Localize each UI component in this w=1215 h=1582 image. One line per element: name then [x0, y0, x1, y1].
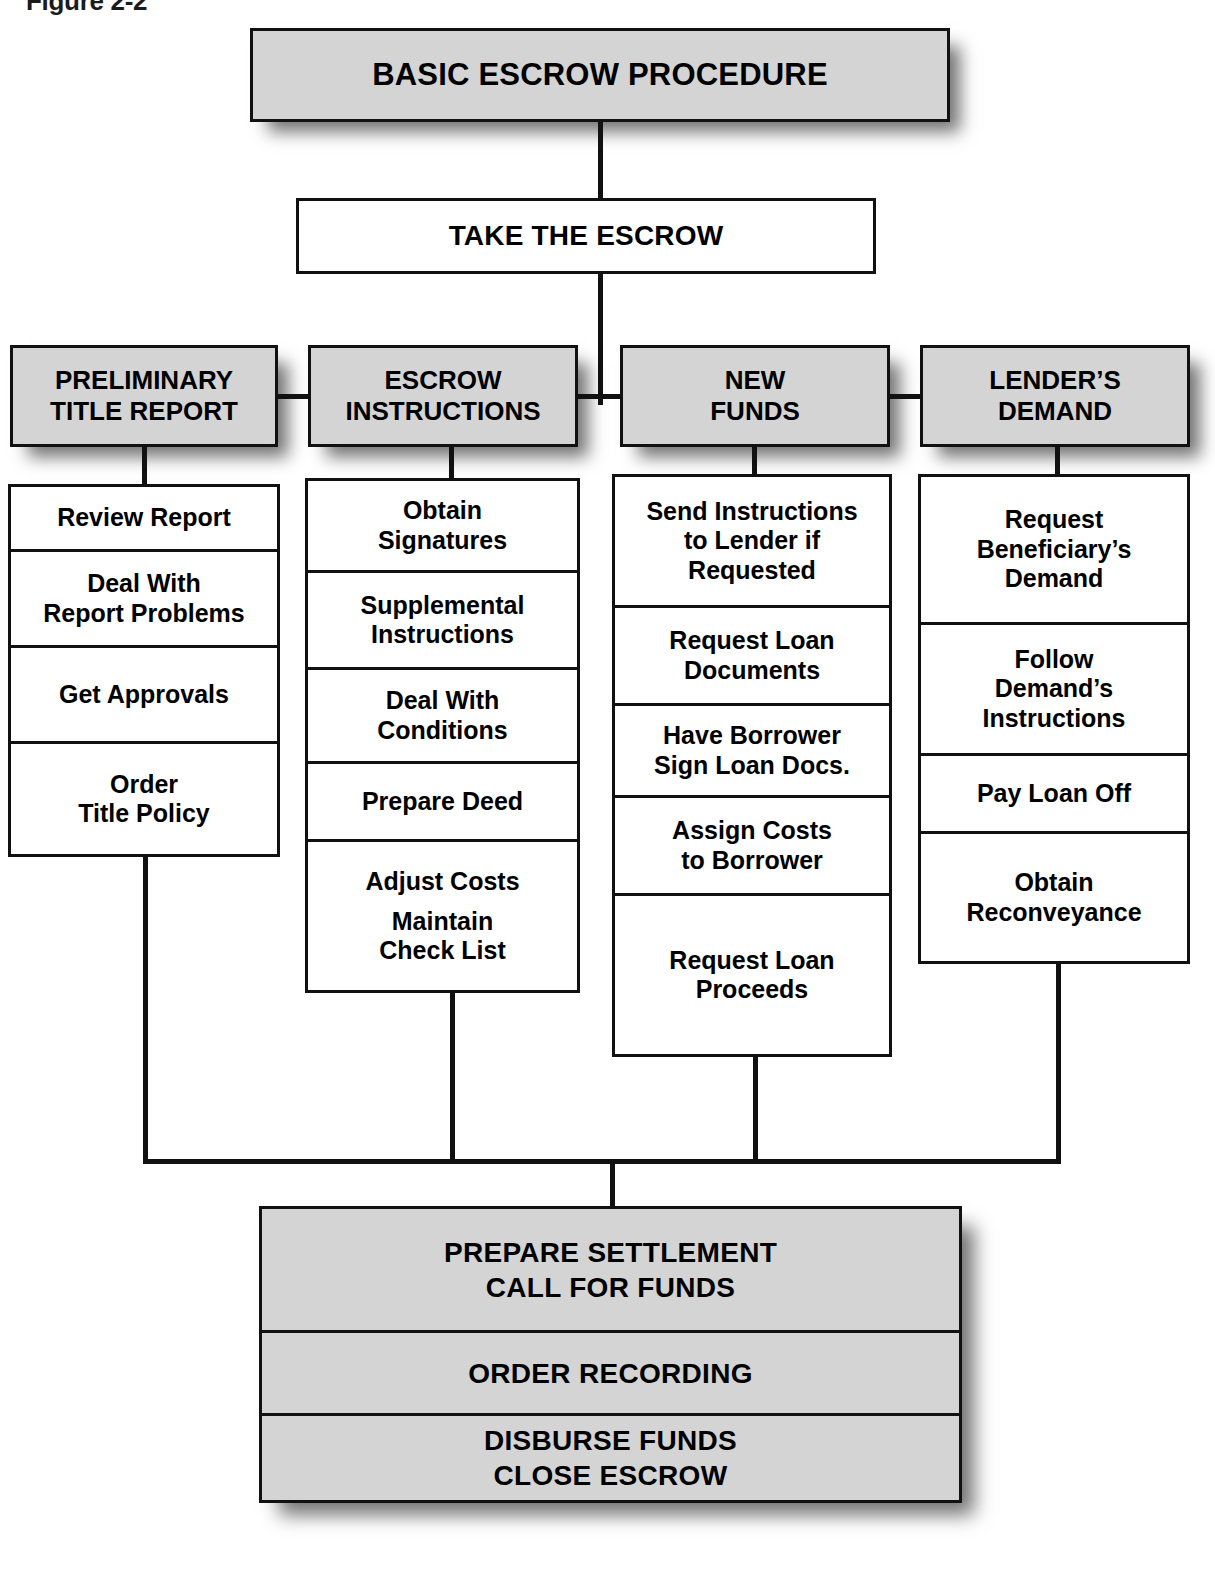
connector-header-to-body-3	[752, 444, 757, 476]
figure-label: Figure 2-2	[26, 0, 147, 17]
list-item: Adjust Costs Maintain Check List	[308, 842, 577, 990]
bottom-row-line2: CALL FOR FUNDS	[486, 1272, 735, 1303]
title-box-label: BASIC ESCROW PROCEDURE	[372, 57, 828, 93]
column-header-lenders-demand: LENDER’S DEMAND	[920, 345, 1190, 447]
list-item: Deal With Conditions	[308, 670, 577, 764]
cell-line-2: Signatures	[378, 526, 507, 554]
list-item: Pay Loan Off	[921, 756, 1187, 834]
list-item: Supplemental Instructions	[308, 573, 577, 670]
cell-line-2: Reconveyance	[966, 898, 1141, 926]
column-header-line1: ESCROW	[385, 365, 502, 396]
cell-line-1: Request	[1005, 505, 1104, 533]
cell-line-1: Obtain	[1014, 868, 1093, 896]
list-item: Request Beneficiary’s Demand	[921, 477, 1187, 625]
title-box: BASIC ESCROW PROCEDURE	[250, 28, 950, 122]
column-body-escrow-instructions: Obtain Signatures Supplemental Instructi…	[305, 478, 580, 993]
bottom-row-line1: ORDER RECORDING	[468, 1358, 753, 1389]
cell-line-2: Conditions	[377, 716, 508, 744]
cell-line-2: Title Policy	[78, 799, 210, 827]
connector-col1-drop	[143, 855, 148, 1163]
list-item: Get Approvals	[11, 648, 277, 744]
list-item: Request Loan Proceeds	[615, 896, 889, 1054]
column-header-line2: INSTRUCTIONS	[346, 396, 541, 427]
connector-header-3-4	[887, 394, 923, 399]
bottom-row: ORDER RECORDING	[262, 1333, 959, 1415]
bottom-row-line1: DISBURSE FUNDS	[484, 1425, 737, 1456]
cell-line-3: Requested	[688, 556, 816, 584]
cell-line-1: Request Loan	[669, 626, 834, 654]
column-header-line1: PRELIMINARY	[55, 365, 233, 396]
take-escrow-label: TAKE THE ESCROW	[449, 220, 724, 252]
connector-col2-drop	[450, 991, 455, 1163]
cell-line-1: Have Borrower	[663, 721, 841, 749]
bottom-row: DISBURSE FUNDS CLOSE ESCROW	[262, 1416, 959, 1500]
cell-line-2: Demand’s	[995, 674, 1114, 702]
list-item: Send Instructions to Lender if Requested	[615, 477, 889, 608]
cell-line-1: Get Approvals	[59, 680, 229, 708]
cell-line-2: Instructions	[371, 620, 514, 648]
list-item: Have Borrower Sign Loan Docs.	[615, 706, 889, 798]
connector-header-to-body-4	[1055, 444, 1060, 476]
column-header-new-funds: NEW FUNDS	[620, 345, 890, 447]
cell-line-1: Review Report	[57, 503, 231, 531]
bottom-box: PREPARE SETTLEMENT CALL FOR FUNDS ORDER …	[259, 1206, 962, 1503]
cell-line-2: Beneficiary’s	[977, 535, 1132, 563]
cell-line-1: Follow	[1014, 645, 1093, 673]
list-item: Obtain Signatures	[308, 481, 577, 573]
list-item: Review Report	[11, 487, 277, 552]
column-body-new-funds: Send Instructions to Lender if Requested…	[612, 474, 892, 1057]
flowchart-canvas: Figure 2-2 BASIC ESCROW PROCEDURE TAKE T…	[0, 0, 1215, 1582]
list-item: Request Loan Documents	[615, 608, 889, 706]
connector-col3-drop	[753, 1055, 758, 1163]
column-body-lenders-demand: Request Beneficiary’s Demand Follow Dema…	[918, 474, 1190, 964]
connector-col4-drop	[1056, 962, 1061, 1163]
column-header-line2: TITLE REPORT	[50, 396, 238, 427]
cell-line-1: Supplemental	[361, 591, 525, 619]
connector-title-to-take	[598, 122, 603, 200]
cell-line-1: Deal With	[87, 569, 201, 597]
column-header-escrow-instructions: ESCROW INSTRUCTIONS	[308, 345, 578, 447]
cell-line-1: Request Loan	[669, 946, 834, 974]
connector-header-1-2	[275, 394, 311, 399]
cell-line-1: Obtain	[403, 496, 482, 524]
connector-bus-to-bottom	[610, 1159, 615, 1209]
column-header-line1: LENDER’S	[989, 365, 1120, 396]
bottom-row: PREPARE SETTLEMENT CALL FOR FUNDS	[262, 1209, 959, 1333]
list-item: Follow Demand’s Instructions	[921, 625, 1187, 756]
cell-line-2: Maintain	[392, 907, 493, 935]
column-header-preliminary-title-report: PRELIMINARY TITLE REPORT	[10, 345, 278, 447]
cell-line-1: Adjust Costs	[365, 867, 519, 895]
cell-line-3: Demand	[1005, 564, 1104, 592]
cell-line-2: to Borrower	[681, 846, 823, 874]
connector-take-to-headers	[598, 274, 603, 405]
cell-line-1: Assign Costs	[672, 816, 832, 844]
column-body-preliminary-title-report: Review Report Deal With Report Problems …	[8, 484, 280, 857]
bottom-row-line1: PREPARE SETTLEMENT	[444, 1237, 777, 1268]
cell-line-2: Proceeds	[696, 975, 809, 1003]
list-item: Deal With Report Problems	[11, 552, 277, 648]
cell-line-3: Instructions	[982, 704, 1125, 732]
cell-line-3: Check List	[379, 936, 505, 964]
take-escrow-box: TAKE THE ESCROW	[296, 198, 876, 274]
list-item: Assign Costs to Borrower	[615, 798, 889, 896]
cell-line-1: Order	[110, 770, 178, 798]
cell-line-2: Sign Loan Docs.	[654, 751, 850, 779]
cell-line-1: Send Instructions	[646, 497, 857, 525]
cell-line-2: Documents	[684, 656, 820, 684]
cell-line-1: Pay Loan Off	[977, 779, 1131, 807]
column-header-line2: FUNDS	[710, 396, 800, 427]
column-header-line2: DEMAND	[998, 396, 1112, 427]
list-item: Prepare Deed	[308, 764, 577, 842]
bottom-row-line2: CLOSE ESCROW	[494, 1460, 728, 1491]
connector-header-to-body-2	[449, 444, 454, 480]
cell-line-1: Deal With	[386, 686, 500, 714]
column-header-line1: NEW	[725, 365, 786, 396]
connector-header-to-body-1	[142, 444, 147, 486]
connector-merge-bus	[143, 1159, 1061, 1164]
cell-line-2: to Lender if	[684, 526, 820, 554]
connector-header-2-3	[576, 394, 623, 399]
cell-line-2: Report Problems	[43, 599, 244, 627]
list-item: Order Title Policy	[11, 744, 277, 854]
list-item: Obtain Reconveyance	[921, 834, 1187, 961]
cell-line-1: Prepare Deed	[362, 787, 523, 815]
